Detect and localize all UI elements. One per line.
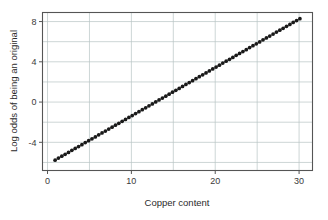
data-point	[154, 100, 158, 104]
data-point	[187, 81, 191, 85]
y-axis-tick-label: 4	[31, 57, 36, 67]
data-point	[83, 141, 87, 145]
data-point	[244, 48, 248, 52]
data-point	[248, 46, 252, 50]
data-point	[181, 85, 185, 89]
data-point	[268, 34, 272, 38]
data-point	[60, 154, 64, 158]
data-point	[295, 19, 299, 23]
data-point	[201, 73, 205, 77]
data-point	[120, 119, 124, 123]
data-point	[265, 36, 269, 40]
data-point	[285, 24, 289, 28]
data-point	[93, 135, 97, 139]
data-point	[238, 52, 242, 56]
data-point	[231, 56, 235, 60]
data-point	[150, 102, 154, 106]
x-axis-tick-label: 0	[45, 176, 50, 186]
data-point	[77, 145, 81, 149]
data-point	[291, 21, 295, 25]
data-point	[204, 71, 208, 75]
data-point	[67, 151, 71, 155]
data-point	[228, 57, 232, 61]
data-point	[281, 26, 285, 30]
data-point	[218, 63, 222, 67]
x-axis-title: Copper content	[145, 197, 210, 208]
data-point	[114, 123, 118, 127]
data-point	[208, 69, 212, 73]
data-point	[177, 87, 181, 91]
data-point	[140, 108, 144, 112]
data-point	[127, 116, 131, 120]
data-point	[87, 139, 91, 143]
data-point	[211, 67, 215, 71]
data-point	[110, 125, 114, 129]
data-point	[90, 137, 94, 141]
data-point	[167, 92, 171, 96]
data-point	[63, 152, 67, 156]
data-point	[130, 114, 134, 118]
y-axis-tick-label: 0	[31, 97, 36, 107]
x-axis-tick-label: 20	[210, 176, 220, 186]
data-point	[144, 106, 148, 110]
data-point	[174, 88, 178, 92]
data-point	[184, 83, 188, 87]
data-point	[117, 121, 121, 125]
y-axis-tick-label: 8	[31, 17, 36, 27]
data-point	[73, 147, 77, 151]
data-point	[161, 96, 165, 100]
x-axis-tick-label: 10	[126, 176, 136, 186]
data-point	[298, 17, 302, 21]
plot-background	[43, 13, 313, 171]
y-axis-tick-label: -4	[28, 138, 36, 148]
data-point	[241, 50, 245, 54]
data-point	[251, 44, 255, 48]
data-point	[258, 40, 262, 44]
data-point	[288, 23, 292, 27]
data-point	[254, 42, 258, 46]
data-point	[104, 129, 108, 133]
data-point	[147, 104, 151, 108]
data-point	[191, 79, 195, 83]
data-point	[80, 143, 84, 147]
data-point	[261, 38, 265, 42]
data-point	[214, 65, 218, 69]
x-axis-tick-label: 30	[294, 176, 304, 186]
chart-svg: -4048 Log odds of being an original 0102…	[0, 0, 328, 220]
data-point	[97, 133, 101, 137]
data-point	[234, 54, 238, 58]
data-point	[124, 118, 128, 122]
data-point	[221, 61, 225, 65]
plot-area	[43, 13, 313, 171]
chart-figure: -4048 Log odds of being an original 0102…	[0, 0, 328, 220]
data-point	[164, 94, 168, 98]
data-point	[100, 131, 104, 135]
data-point	[271, 32, 275, 36]
data-point	[197, 75, 201, 79]
data-point	[224, 59, 228, 63]
data-point	[171, 90, 175, 94]
data-point	[194, 77, 198, 81]
data-point	[137, 110, 141, 114]
data-point	[278, 28, 282, 32]
data-point	[157, 98, 161, 102]
data-point	[57, 156, 61, 160]
data-point	[70, 149, 74, 153]
data-point	[107, 127, 111, 131]
y-axis-title: Log odds of being an original	[8, 30, 19, 152]
data-point	[275, 30, 279, 34]
data-point	[134, 112, 138, 116]
data-point	[53, 158, 57, 162]
